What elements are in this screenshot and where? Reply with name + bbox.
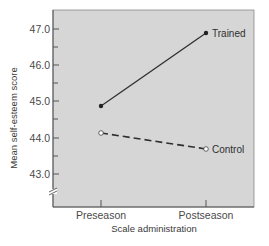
y-tick-label: 44.0 [30,132,51,144]
x-axis-title: Scale administration [111,223,197,234]
trained-postseason-point [204,31,208,35]
series-label-control: Control [212,144,244,155]
trained-preseason-point [99,104,103,108]
series-label-trained: Trained [212,28,246,39]
y-tick-label: 43.0 [30,168,51,180]
x-tick-label-postseason: Postseason [179,209,234,221]
y-tick-label: 45.0 [30,95,51,107]
y-tick-label: 46.0 [30,59,51,71]
control-preseason-point [99,131,104,136]
line-chart: 47.0 46.0 45.0 44.0 43.0 Preseason Posts… [0,0,269,246]
y-axis-title: Mean self-esteem score [8,67,19,168]
control-postseason-point [204,147,209,152]
y-tick-label: 47.0 [30,23,51,35]
x-tick-label-preseason: Preseason [76,209,126,221]
plot-area [53,10,254,207]
axis-break-icon [49,188,57,195]
